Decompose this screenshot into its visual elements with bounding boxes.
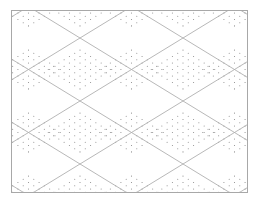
diamond-dot-pattern	[0, 0, 255, 211]
background	[0, 0, 255, 211]
